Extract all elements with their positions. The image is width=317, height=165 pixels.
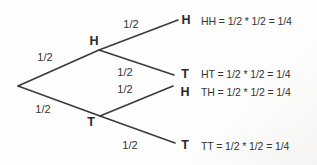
leaf-label-hh: H [181,14,190,27]
edge-root-to-h [18,50,99,86]
probability-label-t-th: 1/2 [117,84,132,95]
probability-label-root-t: 1/2 [35,104,50,115]
leaf-label-ht: T [181,68,189,81]
leaf-label-th: H [180,86,189,99]
probability-label-h-ht: 1/2 [117,67,132,78]
probability-tree-diagram: 1/2 1/2 H T 1/2 1/2 1/2 1/2 H T H T HH =… [0,0,317,165]
probability-label-h-hh: 1/2 [123,19,138,30]
edge-root-to-t [18,86,100,116]
node-label-t: T [87,116,95,129]
node-label-h: H [89,35,98,48]
leaf-label-tt: T [181,139,189,152]
edge-t-to-th [100,86,173,116]
outcome-equation-hh: HH = 1/2 * 1/2 = 1/4 [201,16,292,27]
edge-h-to-ht [99,50,174,75]
outcome-equation-th: TH = 1/2 * 1/2 = 1/4 [201,87,291,98]
probability-label-t-tt: 1/2 [122,140,137,151]
outcome-equation-ht: HT = 1/2 * 1/2 = 1/4 [201,69,290,80]
probability-label-root-h: 1/2 [37,52,52,63]
outcome-equation-tt: TT = 1/2 * 1/2 = 1/4 [201,141,289,152]
